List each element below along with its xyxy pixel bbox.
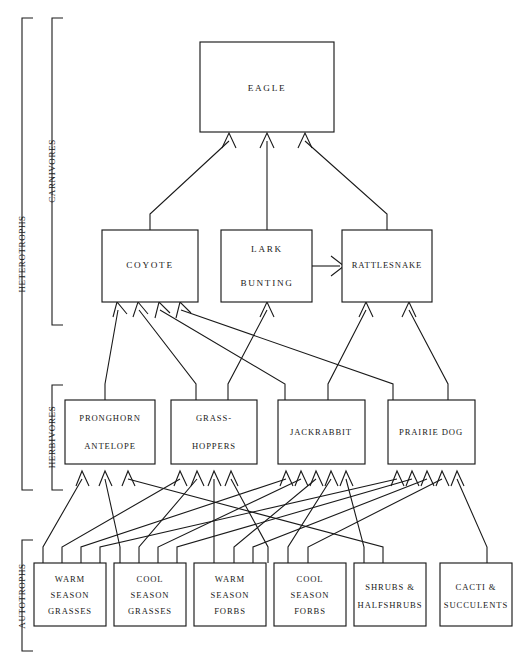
link-jackrabbit-rattlesnake	[328, 310, 366, 400]
link-prairiedog-coyote	[181, 310, 393, 400]
node-eagle[interactable]: EAGLE	[200, 42, 334, 132]
node-coyote[interactable]: COYOTE	[102, 230, 198, 302]
cool-season-forbs-line3: FORBS	[294, 606, 326, 616]
arrowhead-warmgrasses-pronghorn	[76, 471, 89, 486]
arrowhead-coolgrasses-jackrabbit	[295, 471, 308, 486]
node-pronghorn[interactable]: PRONGHORN ANTELOPE	[65, 400, 155, 464]
link-shrubs-jackrabbit	[346, 479, 364, 563]
carnivores-label: CARNIVORES	[47, 139, 57, 203]
link-larkbunting-rattlesnake-group	[312, 256, 344, 276]
arrowhead-cacti-prairiedog	[451, 471, 464, 486]
link-coolgrasses-jackrabbit	[158, 479, 301, 563]
cool-season-forbs-line1: COOL	[297, 574, 324, 584]
cool-season-grasses-line3: GRASSES	[128, 606, 172, 616]
cool-season-forbs-line2: SEASON	[291, 590, 330, 600]
arrowhead-grasshoppers-coyote	[133, 302, 148, 317]
cool-season-grasses-line2: SEASON	[131, 590, 170, 600]
link-jackrabbit-coyote	[160, 310, 285, 400]
link-coolforbs-jackrabbit	[288, 479, 331, 563]
arrowhead-shrubs-jackrabbit	[340, 471, 353, 486]
link-rattlesnake-eagle	[305, 141, 387, 230]
cacti-succulents-line2: SUCCULENTS	[444, 600, 508, 610]
warm-season-grasses-line3: GRASSES	[48, 606, 92, 616]
food-web-canvas: HETEROTROPHS CARNIVORES HERBIVORES AUTOT…	[0, 0, 527, 661]
grasshoppers-box[interactable]	[171, 400, 257, 464]
node-shrubs-halfshrubs[interactable]: SHRUBS & HALFSHRUBS	[354, 563, 426, 626]
link-coolgrasses-grasshoppers	[139, 479, 197, 563]
pronghorn-label-line1: PRONGHORN	[79, 413, 141, 423]
heterotrophs-label: HETEROTROPHS	[17, 215, 27, 292]
arrowhead-coolforbs-prairiedog	[436, 471, 449, 486]
link-grasshoppers-coyote	[139, 310, 196, 400]
herbivores-label: HERBIVORES	[47, 406, 57, 469]
bracket-group: HETEROTROPHS CARNIVORES HERBIVORES AUTOT…	[17, 18, 63, 651]
arrowhead-warmgrasses-grasshoppers	[174, 471, 187, 486]
links-herbivore-to-carnivore	[105, 302, 448, 400]
warm-season-forbs-line3: FORBS	[214, 606, 246, 616]
lark-bunting-label-line2: BUNTING	[240, 278, 293, 288]
link-warmgrasses-grasshoppers	[62, 479, 180, 563]
arrowhead-coolforbs-jackrabbit	[325, 471, 338, 486]
arrowhead-jackrabbit-rattlesnake	[359, 302, 373, 317]
node-prairie-dog[interactable]: PRAIRIE DOG	[388, 400, 475, 464]
lark-bunting-box[interactable]	[221, 230, 312, 302]
arrowhead-grasshoppers-larkbunting	[260, 302, 274, 317]
link-cacti-prairiedog	[457, 479, 487, 563]
autotrophs-label: AUTOTROPHS	[17, 563, 27, 628]
cacti-succulents-line1: CACTI &	[456, 582, 497, 592]
link-warmgrasses-jackrabbit	[81, 479, 286, 563]
link-pronghorn-coyote	[105, 310, 118, 400]
arrowhead-prairiedog-rattlesnake	[402, 302, 416, 317]
coyote-label: COYOTE	[126, 260, 173, 270]
link-coolforbs-prairiedog	[308, 479, 442, 563]
links-carnivore-to-eagle	[150, 133, 387, 230]
link-prairiedog-rattlesnake	[409, 310, 448, 400]
node-rattlesnake[interactable]: RATTLESNAKE	[342, 230, 432, 302]
cacti-succulents-box[interactable]	[440, 563, 512, 626]
jackrabbit-label: JACKRABBIT	[290, 427, 352, 437]
link-shrubs-pronghorn	[128, 479, 383, 563]
shrubs-halfshrubs-line2: HALFSHRUBS	[358, 600, 423, 610]
lark-bunting-label-line1: LARK	[251, 244, 283, 254]
node-cool-season-forbs[interactable]: COOL SEASON FORBS	[274, 563, 346, 626]
node-cool-season-grasses[interactable]: COOL SEASON GRASSES	[114, 563, 186, 626]
arrowhead-prairiedog-coyote	[176, 302, 191, 318]
arrowhead-pronghorn-coyote	[113, 302, 127, 317]
food-web-diagram: HETEROTROPHS CARNIVORES HERBIVORES AUTOT…	[0, 0, 527, 661]
pronghorn-box[interactable]	[65, 400, 155, 464]
node-jackrabbit[interactable]: JACKRABBIT	[278, 400, 365, 464]
node-warm-season-forbs[interactable]: WARM SEASON FORBS	[194, 563, 266, 626]
shrubs-halfshrubs-line1: SHRUBS &	[365, 582, 414, 592]
node-cacti-succulents[interactable]: CACTI & SUCCULENTS	[440, 563, 512, 626]
warm-season-grasses-line2: SEASON	[51, 590, 90, 600]
arrowhead-coolforbs-grasshoppers	[225, 471, 238, 486]
links-producer-to-herbivore	[43, 471, 487, 563]
prairie-dog-label: PRAIRIE DOG	[399, 427, 463, 437]
warm-season-forbs-line2: SEASON	[211, 590, 250, 600]
pronghorn-label-line2: ANTELOPE	[84, 441, 136, 451]
arrowhead-shrubs-pronghorn	[122, 471, 135, 486]
link-coyote-eagle	[150, 141, 229, 230]
grasshoppers-label-line2: HOPPERS	[192, 441, 236, 451]
node-lark-bunting[interactable]: LARK BUNTING	[221, 230, 312, 302]
shrubs-halfshrubs-box[interactable]	[354, 563, 426, 626]
warm-season-grasses-line1: WARM	[55, 574, 85, 584]
arrowhead-warmforbs-jackrabbit	[310, 471, 323, 486]
node-grasshoppers[interactable]: GRASS- HOPPERS	[171, 400, 257, 464]
cool-season-grasses-line1: COOL	[137, 574, 164, 584]
grasshoppers-label-line1: GRASS-	[196, 413, 232, 423]
rattlesnake-label: RATTLESNAKE	[352, 260, 423, 270]
warm-season-forbs-line1: WARM	[215, 574, 245, 584]
eagle-label: EAGLE	[248, 83, 287, 93]
link-grasshoppers-larkbunting	[228, 310, 267, 400]
arrowhead-coolgrasses-prairiedog	[406, 471, 419, 486]
arrowhead-jackrabbit-coyote	[155, 302, 170, 318]
node-warm-season-grasses[interactable]: WARM SEASON GRASSES	[34, 563, 106, 626]
